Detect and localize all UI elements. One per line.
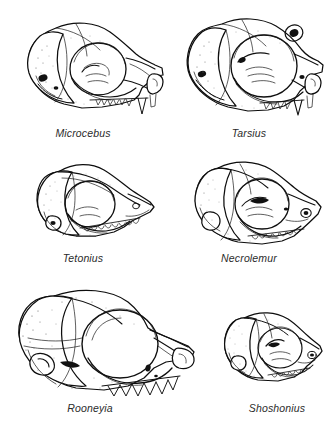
skull-lateral-icon xyxy=(176,14,326,126)
skull-figure-tarsius xyxy=(176,14,326,126)
skull-figure-microcebus xyxy=(16,16,166,126)
figure-label-tarsius: Tarsius xyxy=(166,127,332,139)
skull-illustration-plate: Microcebus xyxy=(0,0,332,429)
skull-lateral-icon xyxy=(16,16,166,126)
skull-lateral-icon xyxy=(28,158,158,250)
skull-lateral-icon xyxy=(8,286,200,398)
skull-lateral-icon xyxy=(218,308,324,394)
skull-figure-rooneyia xyxy=(8,286,200,398)
figure-label-shoshonius: Shoshonius xyxy=(222,402,332,414)
figure-label-microcebus: Microcebus xyxy=(0,127,166,139)
skull-lateral-icon xyxy=(182,156,324,250)
figure-label-necrolemur: Necrolemur xyxy=(166,252,332,264)
skull-figure-shoshonius xyxy=(218,308,324,394)
skull-figure-necrolemur xyxy=(182,156,324,250)
figure-label-rooneyia: Rooneyia xyxy=(0,402,180,414)
skull-figure-tetonius xyxy=(28,158,158,250)
figure-label-tetonius: Tetonius xyxy=(0,252,166,264)
